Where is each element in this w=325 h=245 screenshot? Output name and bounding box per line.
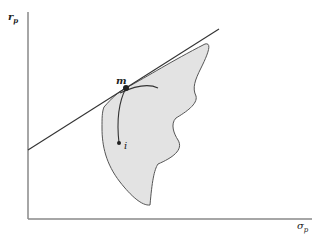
x-axis-label: σp <box>297 220 309 234</box>
point-m-label: m <box>116 75 127 86</box>
point-i-marker <box>117 141 121 145</box>
diagram-canvas: m i rp σp <box>0 0 325 245</box>
point-i-label: i <box>124 140 127 151</box>
y-axis-label: rp <box>8 11 18 25</box>
